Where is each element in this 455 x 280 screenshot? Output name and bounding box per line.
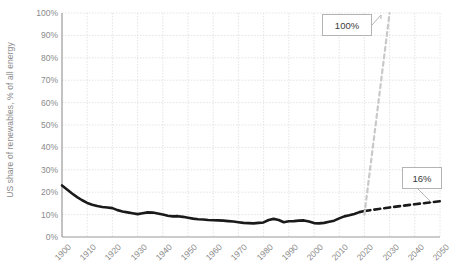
plot-area (0, 0, 455, 280)
series-line-projected (364, 201, 440, 211)
annotation-100-percent: 100% (322, 14, 372, 36)
annotation-16-percent: 16% (402, 167, 442, 189)
annotation-16-percent-leader (418, 189, 432, 203)
series-line-100-percent-pathway (364, 13, 389, 215)
renewables-share-chart: US share of renewables, % of all energy … (0, 0, 455, 280)
annotation-100-percent-label: 100% (335, 20, 359, 31)
annotation-16-percent-label: 16% (412, 173, 431, 184)
annotation-100-percent-leader (372, 15, 381, 25)
